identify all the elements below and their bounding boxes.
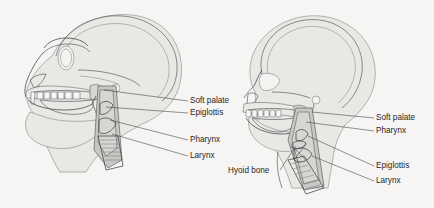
label-hyoid-bone-human: Hyoid bone: [228, 166, 270, 175]
ape-tooth: [65, 92, 72, 99]
ape-tooth: [58, 92, 64, 99]
ape-tooth: [51, 92, 57, 99]
label-pharynx-human: Pharynx: [376, 126, 406, 135]
label-pharynx-ape: Pharynx: [190, 135, 220, 144]
ape-tooth: [73, 92, 80, 99]
ape-tooth: [37, 92, 43, 99]
anatomical-diagram: Soft palate Epiglottis Pharynx Larynx: [0, 0, 434, 208]
label-epiglottis-human: Epiglottis: [376, 161, 409, 170]
label-soft-palate-ape: Soft palate: [190, 96, 230, 105]
ape-tooth: [44, 92, 50, 99]
label-larynx-human: Larynx: [376, 176, 401, 185]
human-tooth: [270, 110, 275, 117]
human-tooth: [252, 110, 257, 117]
human-tooth: [258, 110, 263, 117]
human-tooth: [246, 110, 251, 117]
human-tooth: [276, 110, 281, 117]
label-larynx-ape: Larynx: [190, 151, 215, 160]
human-head-panel: Soft palate Pharynx Epiglottis Larynx Hy…: [228, 16, 416, 194]
human-mandibular-condyle: [312, 96, 320, 104]
label-soft-palate-human: Soft palate: [376, 113, 416, 122]
human-tooth: [264, 110, 269, 117]
human-nasal-bridge: [244, 86, 254, 98]
label-epiglottis-ape: Epiglottis: [190, 108, 223, 117]
ape-head-panel: Soft palate Epiglottis Pharynx Larynx: [25, 15, 230, 172]
ape-canine-tooth: [31, 92, 35, 104]
